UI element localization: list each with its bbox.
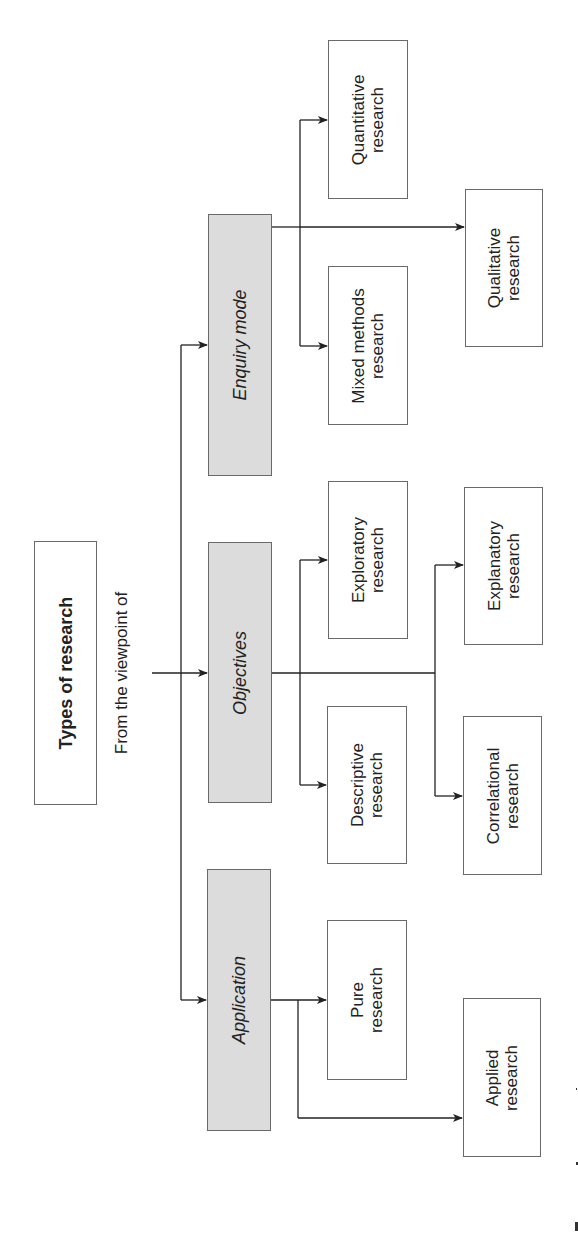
connector-lines xyxy=(0,0,578,1248)
